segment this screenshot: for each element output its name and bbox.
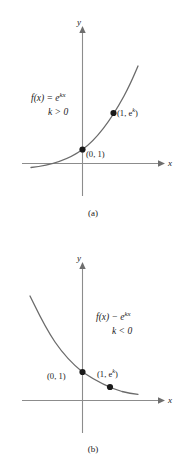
- panel-exponential-growth: y x f(x) = ekx k > 0 (0, 1) (1, ek) (a): [0, 0, 186, 236]
- formula-b-exponent: kx: [125, 310, 131, 317]
- point-0-1-b: [79, 369, 85, 375]
- point-label-0-1-a: (0, 1): [86, 150, 105, 159]
- point-0-1-a: [79, 146, 85, 152]
- y-axis-arrow-a: [79, 26, 85, 33]
- y-axis-label-a: y: [77, 18, 81, 27]
- point-1-ek-b: [107, 384, 113, 390]
- x-axis-label-b: x: [168, 396, 172, 405]
- formula-a-base: f(x) = e: [31, 93, 60, 103]
- formula-b: f(x) − ekx: [96, 313, 131, 323]
- point-label-1-ek-b-suffix: ): [115, 369, 118, 379]
- point-label-1-ek-b-prefix: (1, e: [97, 369, 112, 379]
- graph-b: [0, 236, 186, 473]
- caption-b: (b): [0, 444, 186, 454]
- formula-a-exponent: kx: [60, 91, 66, 98]
- formula-b-base: f(x) − e: [96, 312, 125, 322]
- condition-b: k < 0: [112, 327, 132, 337]
- point-label-1-ek-b: (1, ek): [97, 370, 118, 379]
- point-1-ek-a: [110, 110, 116, 116]
- x-axis-arrow-b: [158, 397, 165, 403]
- caption-a: (a): [0, 208, 186, 218]
- y-axis-label-b: y: [77, 254, 81, 263]
- point-label-1-ek-a-prefix: (1, e: [117, 108, 132, 118]
- x-axis-label-a: x: [168, 159, 172, 168]
- point-label-1-ek-a: (1, ek): [117, 109, 138, 118]
- point-label-1-ek-a-suffix: ): [135, 108, 138, 118]
- point-label-0-1-b: (0, 1): [47, 372, 66, 381]
- formula-a: f(x) = ekx: [31, 94, 66, 104]
- y-axis-arrow-b: [79, 262, 85, 269]
- graph-a: [0, 0, 186, 236]
- condition-a: k > 0: [48, 108, 68, 118]
- x-axis-arrow-a: [158, 160, 165, 166]
- panel-exponential-decay: y x f(x) − ekx k < 0 (0, 1) (1, ek) (b): [0, 236, 186, 473]
